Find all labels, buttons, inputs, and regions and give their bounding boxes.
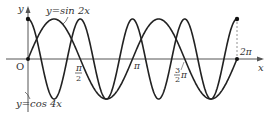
sin-label-leader xyxy=(63,17,68,24)
x-axis-label: x xyxy=(258,62,264,73)
tick-three-half-den: 2 xyxy=(175,75,180,84)
two-pi-dot xyxy=(235,57,239,61)
x-axis-arrow-icon xyxy=(257,57,264,62)
graph-canvas: y x O π 2 π 3 2 π 2π y=sin 2x y=cos 4x xyxy=(0,0,276,118)
tick-three-half-pi: π xyxy=(180,70,188,80)
tick-half-pi-num: π xyxy=(75,63,83,73)
tick-pi: π xyxy=(133,61,141,71)
sin-curve-label: y=sin 2x xyxy=(45,5,90,16)
y-axis-arrow-icon xyxy=(26,6,31,13)
cos-end-dot xyxy=(235,17,239,21)
tick-three-half-num: 3 xyxy=(175,66,180,75)
tick-half-pi-den: 2 xyxy=(76,74,81,83)
origin-label: O xyxy=(16,61,24,72)
cos-start-dot xyxy=(26,17,30,21)
y-axis-label: y xyxy=(17,3,24,14)
tick-two-pi: 2π xyxy=(239,47,253,57)
cos-curve-label: y=cos 4x xyxy=(15,98,62,109)
three-half-leader xyxy=(181,62,184,70)
origin-dot xyxy=(26,57,30,61)
